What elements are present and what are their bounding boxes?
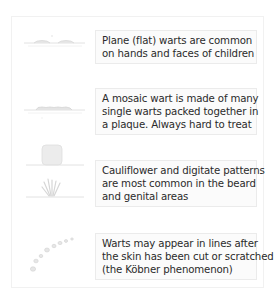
cauliflower-digitate-wart-icon [22, 143, 87, 208]
caption-cauliflower-digitate: Cauliflower and digitate patterns are mo… [95, 160, 257, 207]
caption-line: Cauliflower and digitate patterns [102, 164, 250, 177]
caption-line: are most common in the beard [102, 177, 250, 190]
caption-line: (the Köbner phenomenon) [102, 263, 250, 276]
caption-line: a plaque. Always hard to treat [102, 118, 250, 131]
caption-line: the skin has been cut or scratched [102, 250, 250, 263]
caption-line: Plane (flat) warts are common [102, 34, 250, 47]
mosaic-wart-icon [22, 100, 87, 120]
caption-line: and genital areas [102, 190, 250, 203]
caption-plane-warts: Plane (flat) warts are common on hands a… [95, 30, 257, 64]
plane-wart-icon [22, 34, 87, 54]
caption-mosaic-wart: A mosaic wart is made of many single war… [95, 88, 257, 135]
caption-line: single warts packed together in [102, 105, 250, 118]
caption-line: on hands and faces of children [102, 47, 250, 60]
caption-line: Warts may appear in lines after [102, 237, 250, 250]
koebner-linear-warts-icon [28, 235, 83, 275]
caption-line: A mosaic wart is made of many [102, 92, 250, 105]
caption-koebner-phenomenon: Warts may appear in lines after the skin… [95, 233, 257, 280]
